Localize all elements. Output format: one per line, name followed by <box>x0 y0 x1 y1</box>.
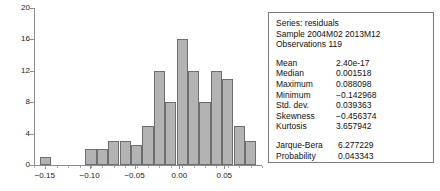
x-tick-label: 0.05 <box>204 171 244 180</box>
x-tick-mark <box>135 166 136 169</box>
stat-label: Minimum <box>276 90 336 101</box>
stat-row: Std. dev.0.039363 <box>276 100 426 111</box>
normality-test-list: Jarque-Bera6.277229Probability0.043343 <box>276 140 426 161</box>
x-minor-tick-mark <box>45 166 46 168</box>
descriptive-statistics-list: Mean2.40e-17Median0.001518Maximum0.08809… <box>276 58 426 132</box>
sample-range-line: Sample 2004M02 2013M12 <box>276 29 426 40</box>
x-minor-tick-mark <box>80 166 81 168</box>
y-tick-label: 20 <box>4 4 30 12</box>
stat-label: Skewness <box>276 111 336 122</box>
histogram-bar <box>142 126 153 165</box>
histogram-bar <box>211 71 222 165</box>
stat-value: 0.039363 <box>336 100 426 111</box>
x-minor-tick-mark <box>57 166 58 168</box>
y-tick-label: 0 <box>4 161 30 169</box>
stat-label: Kurtosis <box>276 121 336 132</box>
stat-row: Jarque-Bera6.277229 <box>276 140 426 151</box>
x-minor-tick-mark <box>102 166 103 168</box>
stat-label: Probability <box>276 151 338 162</box>
y-tick-label: 8 <box>4 98 30 106</box>
stat-row: Skewness−0.456374 <box>276 111 426 122</box>
histogram-screenshot: 048121620 −0.15−0.10−0.050.000.05 Series… <box>0 0 440 191</box>
histogram-bar <box>40 157 51 165</box>
x-tick-mark <box>179 166 180 169</box>
stat-label: Maximum <box>276 79 336 90</box>
histogram-bar <box>165 102 176 165</box>
x-minor-tick-mark <box>34 166 35 168</box>
y-tick-label: 4 <box>4 130 30 138</box>
y-tick-mark <box>30 134 34 135</box>
histogram-bar <box>108 141 119 165</box>
histogram-bar <box>234 126 245 165</box>
stats-spacer <box>276 50 426 58</box>
x-minor-tick-mark <box>205 166 206 168</box>
y-tick-mark <box>30 102 34 103</box>
stat-row: Maximum0.088098 <box>276 79 426 90</box>
histogram-bar <box>97 149 108 165</box>
stat-label: Median <box>276 68 336 79</box>
x-minor-tick-mark <box>68 166 69 168</box>
x-minor-tick-mark <box>228 166 229 168</box>
x-minor-tick-mark <box>239 166 240 168</box>
histogram-chart: 048121620 −0.15−0.10−0.050.000.05 <box>0 0 262 191</box>
y-tick-mark <box>30 39 34 40</box>
statistics-panel: Series: residuals Sample 2004M02 2013M12… <box>268 12 434 163</box>
stat-value: 2.40e-17 <box>336 58 426 69</box>
y-tick-label: 16 <box>4 35 30 43</box>
x-tick-label: −0.05 <box>115 171 155 180</box>
stat-value: −0.456374 <box>336 111 426 122</box>
x-tick-label: 0.00 <box>159 171 199 180</box>
stat-row: Mean2.40e-17 <box>276 58 426 69</box>
x-minor-tick-mark <box>262 166 263 168</box>
stat-label: Mean <box>276 58 336 69</box>
y-tick-label: 12 <box>4 67 30 75</box>
x-minor-tick-mark <box>125 166 126 168</box>
stat-value: 0.043343 <box>338 151 426 162</box>
stat-value: 0.088098 <box>336 79 426 90</box>
stat-label: Jarque-Bera <box>276 140 338 151</box>
x-tick-label: −0.10 <box>70 171 110 180</box>
stat-value: −0.142968 <box>336 90 426 101</box>
x-tick-mark <box>224 166 225 169</box>
x-minor-tick-mark <box>182 166 183 168</box>
histogram-bar <box>154 71 165 165</box>
series-name-line: Series: residuals <box>276 18 426 29</box>
x-minor-tick-mark <box>251 166 252 168</box>
y-tick-mark <box>30 71 34 72</box>
x-minor-tick-mark <box>114 166 115 168</box>
histogram-bar <box>120 141 131 165</box>
y-axis-labels: 048121620 <box>0 0 30 191</box>
stat-row: Median0.001518 <box>276 68 426 79</box>
x-minor-tick-mark <box>159 166 160 168</box>
stat-row: Kurtosis3.657942 <box>276 121 426 132</box>
stat-label: Std. dev. <box>276 100 336 111</box>
stat-row: Minimum−0.142968 <box>276 90 426 101</box>
histogram-bar <box>222 79 233 165</box>
x-minor-tick-mark <box>194 166 195 168</box>
stat-value: 6.277229 <box>338 140 426 151</box>
x-minor-tick-mark <box>216 166 217 168</box>
x-minor-tick-mark <box>148 166 149 168</box>
x-tick-label: −0.15 <box>25 171 65 180</box>
stat-value: 3.657942 <box>336 121 426 132</box>
histogram-bar <box>177 39 188 165</box>
histogram-bar <box>199 102 210 165</box>
x-minor-tick-mark <box>91 166 92 168</box>
x-minor-tick-mark <box>171 166 172 168</box>
histogram-bars <box>34 8 262 165</box>
histogram-bar <box>131 145 142 165</box>
histogram-bar <box>188 71 199 165</box>
stats-spacer-2 <box>276 132 426 140</box>
x-minor-tick-mark <box>137 166 138 168</box>
histogram-bar <box>85 149 96 165</box>
y-tick-mark <box>30 8 34 9</box>
stat-row: Probability0.043343 <box>276 151 426 162</box>
stat-value: 0.001518 <box>336 68 426 79</box>
observations-line: Observations 119 <box>276 39 426 50</box>
histogram-bar <box>245 141 256 165</box>
